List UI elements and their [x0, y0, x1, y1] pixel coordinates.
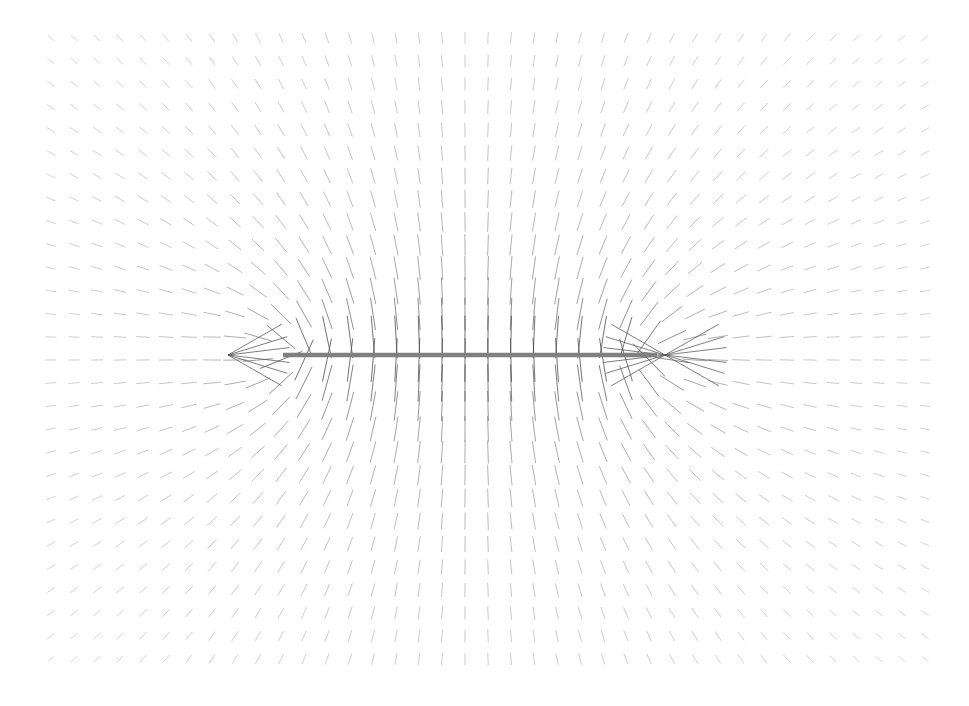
vector-field-figure — [0, 0, 969, 706]
quiver-plot-canvas — [0, 0, 969, 706]
